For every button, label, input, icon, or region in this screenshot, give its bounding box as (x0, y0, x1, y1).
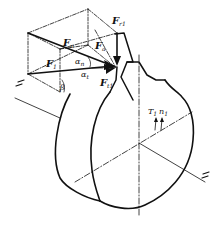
label-T1: T1 (148, 107, 157, 117)
gear-body (55, 80, 193, 208)
label-alpha-n: αn (75, 57, 84, 67)
label-F1: F1 (45, 58, 57, 70)
label-Ft1: Ft1 (99, 77, 113, 89)
label-n1: n1 (159, 107, 168, 117)
helical-gear-force-diagram: Fr1 Fn Fa F1 Ft1 αn αt β T1 n1 (0, 0, 223, 228)
label-Fa: Fa (94, 40, 106, 52)
arrow-heads (104, 56, 121, 74)
gear-tooth (110, 33, 165, 100)
label-alpha-t: αt (81, 70, 89, 80)
label-Fn: Fn (62, 37, 74, 49)
shaft-lines (15, 98, 205, 182)
force-Ft1-line (28, 66, 113, 74)
diagram-canvas: Fr1 Fn Fa F1 Ft1 αn αt β T1 n1 (0, 0, 223, 228)
label-Fr1: Fr1 (111, 15, 126, 27)
label-beta: β (59, 83, 65, 92)
